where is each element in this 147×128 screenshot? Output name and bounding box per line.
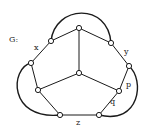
- edge-top-right-upper: [79, 28, 111, 43]
- vertex-left-mid: [28, 60, 33, 65]
- graph-label: G:: [9, 36, 18, 44]
- graph-canvas: [0, 0, 147, 128]
- vertex-right-lower: [116, 88, 121, 93]
- vertex-bottom-left: [57, 112, 62, 117]
- edge-label-p: p: [126, 81, 131, 89]
- edge-left-lower-bottom: [38, 90, 60, 115]
- vertex-right-upper: [108, 40, 113, 45]
- vertex-right-mid: [126, 63, 131, 68]
- vertex-top: [76, 25, 81, 30]
- vertex-left-upper: [48, 38, 53, 43]
- edge-label-y: y: [124, 48, 129, 56]
- vertex-bottom-right: [96, 112, 101, 117]
- vertex-center: [76, 70, 81, 75]
- edge-label-q: q: [110, 98, 115, 106]
- edge-q: [99, 91, 119, 115]
- edge-center-left: [38, 73, 79, 90]
- vertex-left-lower: [35, 87, 40, 92]
- edge-top-left-upper: [51, 28, 79, 41]
- edge-label-z: z: [76, 119, 80, 127]
- edge-center-right: [79, 73, 119, 91]
- edge-label-x: x: [34, 44, 39, 52]
- edge-left-mid-lower: [31, 63, 38, 90]
